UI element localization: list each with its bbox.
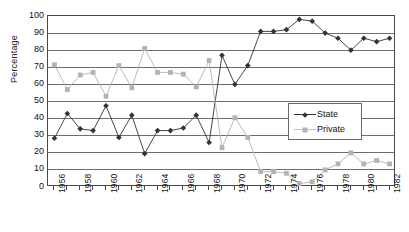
x-tick-label: 1972 [263,174,273,193]
x-tick [208,186,209,190]
data-point [219,53,225,59]
data-point [155,70,160,75]
series-layer [48,16,396,187]
data-point [245,135,250,140]
x-tick-label: 1974 [289,174,299,193]
x-tick [157,186,158,190]
data-point [258,29,264,35]
x-tick-label: 1968 [212,174,222,193]
plot-area [47,15,395,186]
data-point [104,94,109,99]
x-tick [260,186,261,190]
data-point [90,128,96,134]
x-tick [363,186,364,190]
x-tick-label: 1962 [134,174,144,193]
data-point [181,72,186,77]
legend: State Private [288,103,362,140]
y-tick-label: 50 [4,96,44,105]
y-tick-label: 40 [4,113,44,122]
data-point [168,128,174,134]
legend-marker-state-icon [293,109,317,121]
x-tick [131,186,132,190]
data-point [168,70,173,75]
data-point [142,46,147,51]
x-tick-label: 1966 [186,174,196,193]
y-tick-label: 20 [4,147,44,156]
data-point [387,35,393,41]
chart-figure: Percentage 0102030405060708090100 195619… [0,0,409,232]
data-point [323,168,328,173]
y-tick-label: 60 [4,79,44,88]
x-tick-label: 1970 [237,174,247,193]
data-point [194,85,199,90]
x-tick [311,186,312,190]
y-tick-label: 100 [4,11,44,20]
x-tick-label: 1960 [109,174,119,193]
data-point [155,128,161,134]
data-point [361,162,366,167]
data-point [65,87,70,92]
x-tick-label: 1976 [315,174,325,193]
x-tick-label: 1956 [57,174,67,193]
y-tick-label: 0 [4,182,44,191]
data-point [129,85,134,90]
y-tick-label: 80 [4,45,44,54]
data-point [207,58,212,63]
data-point [271,29,277,35]
data-point [52,135,58,141]
data-point [348,150,353,155]
y-tick-label: 90 [4,28,44,37]
legend-label-private: Private [317,124,345,135]
x-tick [105,186,106,190]
legend-item-state: State [293,107,357,122]
legend-marker-private-icon [293,124,317,136]
y-tick-label: 30 [4,130,44,139]
y-axis-tick-labels: 0102030405060708090100 [0,15,44,186]
x-tick [389,186,390,190]
data-point [103,103,109,109]
x-axis-tick-labels: 1956195819601962196419661968197019721974… [47,191,395,232]
x-tick [182,186,183,190]
data-point [52,62,57,67]
data-point [116,135,122,141]
data-point [232,82,238,88]
data-point [206,140,212,146]
x-tick [234,186,235,190]
data-point [310,179,315,184]
x-tick [79,186,80,190]
legend-item-private: Private [293,122,357,137]
data-point [91,70,96,75]
x-tick-label: 1982 [392,174,402,193]
data-point [142,151,148,157]
x-tick [337,186,338,190]
data-point [374,158,379,163]
data-point [232,115,237,120]
data-point [387,162,392,167]
data-point [374,39,380,45]
x-tick [53,186,54,190]
data-point [220,145,225,150]
x-tick-label: 1978 [341,174,351,193]
legend-label-state: State [317,109,338,120]
x-tick-label: 1964 [160,174,170,193]
data-point [336,162,341,167]
y-tick-label: 10 [4,164,44,173]
data-point [116,63,121,68]
y-tick-label: 70 [4,62,44,71]
x-tick-label: 1958 [83,174,93,193]
data-point [129,112,135,118]
data-point [78,73,83,78]
x-tick [285,186,286,190]
x-tick-label: 1980 [366,174,376,193]
data-point [245,63,251,69]
